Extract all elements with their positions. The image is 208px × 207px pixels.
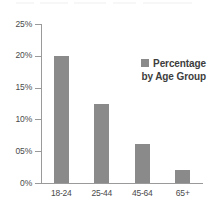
y-axis-label: 05% (0, 147, 32, 156)
legend-label-line1: Percentage (153, 57, 206, 70)
x-axis-label: 45-64 (122, 189, 162, 198)
bar (175, 170, 190, 183)
x-axis-label: 18-24 (41, 189, 81, 198)
legend-entry: Percentage (110, 57, 206, 70)
bar (135, 144, 150, 183)
legend-swatch-icon (141, 59, 149, 67)
bar (94, 104, 109, 183)
y-axis-label: 20% (0, 51, 32, 60)
legend-label-line2: by Age Group (110, 70, 206, 83)
y-axis-label-text: 10% (0, 115, 32, 124)
legend: Percentage by Age Group (110, 57, 206, 83)
y-axis-label-text: 15% (0, 83, 32, 92)
x-axis-label: 65+ (163, 189, 203, 198)
bar-chart: 0%05%10%15%20%25% 18-2425-4445-6465+ Per… (0, 0, 208, 207)
bars-layer (41, 24, 203, 183)
x-axis-line (41, 183, 203, 184)
plot-area: 0%05%10%15%20%25% 18-2425-4445-6465+ Per… (0, 0, 208, 207)
bar (54, 56, 69, 183)
y-axis-label-text: 05% (0, 147, 32, 156)
y-axis-label: 10% (0, 115, 32, 124)
y-axis-label-text: 0% (0, 179, 32, 188)
y-axis-label: 25% (0, 20, 32, 29)
y-axis-label-text: 25% (0, 20, 32, 29)
y-axis-tick (35, 183, 41, 184)
y-axis-label: 15% (0, 83, 32, 92)
y-axis-label: 0% (0, 179, 32, 188)
y-axis-label-text: 20% (0, 51, 32, 60)
x-axis-label: 25-44 (82, 189, 122, 198)
